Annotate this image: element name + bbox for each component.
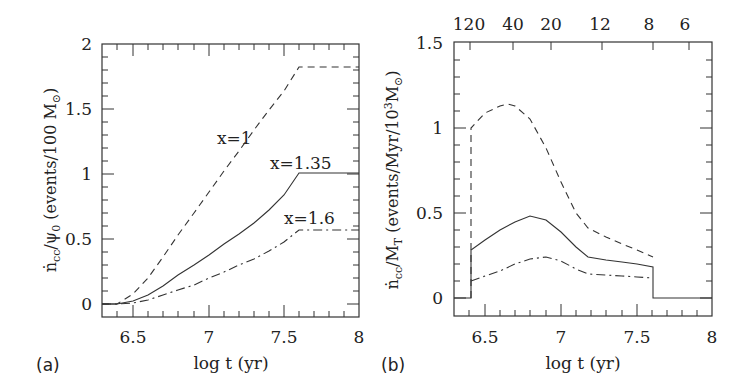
ticks-b — [454, 42, 712, 316]
y-tick-b-1: 1 — [432, 118, 443, 138]
x-tick-a-7-5: 7.5 — [270, 327, 297, 347]
y-tick-a-1: 1 — [81, 164, 92, 184]
svg-text:ṅcc/MT (events/Myr/103M⊙): ṅcc/MT (events/Myr/103M⊙) — [382, 70, 405, 289]
x-axis-label-b: log t (yr) — [545, 353, 620, 373]
panel-b: 0 0.5 1 1.5 6.5 7 7.5 8 120 40 20 12 8 6… — [381, 14, 717, 375]
y-axis-label-a: ṅcc/ψ0 (events/100 M⊙) — [41, 88, 63, 273]
top-tick-12: 12 — [589, 14, 611, 34]
y-tick-b-0-5: 0.5 — [416, 203, 443, 223]
y-tick-labels-b: 0 0.5 1 1.5 — [416, 33, 443, 308]
y-tick-a-1-5: 1.5 — [65, 99, 92, 119]
x-tick-b-7-5: 7.5 — [623, 327, 650, 347]
top-tick-6: 6 — [680, 14, 691, 34]
curves-a — [102, 67, 359, 304]
top-tick-20: 20 — [540, 14, 562, 34]
figure: 0 0.5 1 1.5 2 6.5 7 7.5 8 log t (yr) (a)… — [0, 0, 730, 389]
x-tick-a-6-5: 6.5 — [119, 327, 146, 347]
top-tick-40: 40 — [502, 14, 524, 34]
top-tick-8: 8 — [644, 14, 655, 34]
x-tick-b-8: 8 — [707, 327, 718, 347]
top-tick-120: 120 — [453, 14, 485, 34]
x-tick-a-8: 8 — [354, 327, 365, 347]
curve-b-x135-solid — [454, 216, 712, 298]
svg-text:ṅcc/ψ0 (events/100 M⊙): ṅcc/ψ0 (events/100 M⊙) — [41, 88, 63, 273]
x-tick-a-7: 7 — [204, 327, 215, 347]
x-axis-label-a: log t (yr) — [193, 353, 268, 373]
curve-a-x16-dashdot — [102, 230, 359, 304]
x-tick-labels-b: 6.5 7 7.5 8 — [471, 327, 717, 347]
x-tick-labels-a: 6.5 7 7.5 8 — [119, 327, 364, 347]
plot-frame-a — [102, 44, 359, 317]
y-tick-a-0: 0 — [81, 294, 92, 314]
x-tick-b-6-5: 6.5 — [471, 327, 498, 347]
top-tick-labels-b: 120 40 20 12 8 6 — [453, 14, 691, 34]
y-tick-labels-a: 0 0.5 1 1.5 2 — [65, 34, 92, 314]
panel-a: 0 0.5 1 1.5 2 6.5 7 7.5 8 log t (yr) (a)… — [36, 34, 364, 375]
panel-label-b: (b) — [381, 355, 405, 375]
y-tick-a-0-5: 0.5 — [65, 229, 92, 249]
y-tick-b-0: 0 — [432, 288, 443, 308]
ticks-a — [102, 44, 359, 317]
annotations-a: x=1 x=1.35 x=1.6 — [217, 128, 335, 228]
annotation-x135: x=1.35 — [270, 153, 332, 173]
plot-frame-b — [454, 42, 712, 316]
y-tick-a-2: 2 — [81, 34, 92, 54]
annotation-x1: x=1 — [217, 128, 252, 148]
annotation-x16: x=1.6 — [284, 208, 335, 228]
panel-label-a: (a) — [36, 355, 60, 375]
curve-b-x16-dashdot — [471, 257, 653, 281]
curves-b — [454, 104, 712, 298]
y-axis-label-b: ṅcc/MT (events/Myr/103M⊙) — [382, 70, 405, 289]
x-tick-b-7: 7 — [556, 327, 567, 347]
curve-b-x1-dashed — [471, 104, 653, 298]
curve-a-x135-solid — [102, 173, 359, 304]
y-tick-b-1-5: 1.5 — [416, 33, 443, 53]
